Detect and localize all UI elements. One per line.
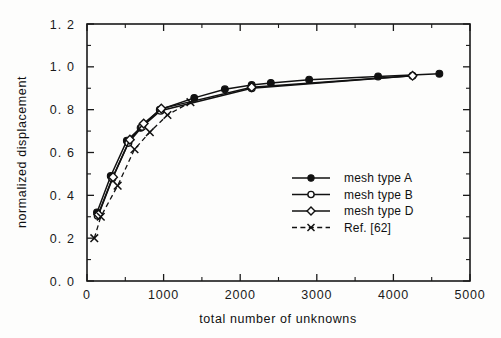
x-tick-label: 4000 — [378, 288, 409, 302]
x-axis-title: total number of unknowns — [199, 312, 357, 326]
y-tick-label: 0. 2 — [50, 232, 75, 246]
legend-item: mesh type A — [292, 171, 412, 185]
legend-label: Ref. [62] — [344, 221, 391, 235]
marker-filled-circle — [436, 70, 443, 77]
marker-filled-circle — [308, 175, 314, 181]
line-chart-canvas: 0. 00. 20. 40. 60. 81. 01. 2 01000200030… — [0, 0, 501, 338]
marker-filled-circle — [221, 86, 228, 93]
y-tick-label: 0. 0 — [50, 275, 75, 289]
y-tick-label: 1. 0 — [50, 60, 75, 74]
marker-open-diamond — [307, 207, 315, 215]
x-tick-label: 5000 — [454, 288, 485, 302]
marker-filled-circle — [306, 76, 313, 83]
chart-legend: mesh type Amesh type Bmesh type DRef. [6… — [292, 171, 414, 235]
marker-open-diamond — [408, 72, 417, 81]
x-axis-ticks — [87, 24, 470, 281]
y-axis-title: normalized displacement — [15, 76, 29, 228]
legend-label: mesh type D — [344, 204, 414, 218]
marker-open-circle — [308, 191, 314, 197]
legend-item: Ref. [62] — [292, 221, 391, 235]
x-tick-label: 3000 — [301, 288, 332, 302]
legend-label: mesh type B — [344, 188, 413, 202]
x-tick-label: 0 — [83, 288, 91, 302]
y-tick-label: 0. 8 — [50, 103, 75, 117]
y-tick-label: 0. 4 — [50, 189, 75, 203]
y-axis-tick-labels: 0. 00. 20. 40. 60. 81. 01. 2 — [50, 18, 75, 289]
y-axis-ticks — [87, 24, 470, 281]
plot-frame — [87, 24, 470, 281]
x-tick-label: 2000 — [225, 288, 256, 302]
chart-figure: 0. 00. 20. 40. 60. 81. 01. 2 01000200030… — [0, 0, 501, 338]
axes-border — [87, 24, 470, 281]
y-tick-label: 1. 2 — [50, 18, 75, 32]
x-axis-tick-labels: 010002000300040005000 — [83, 288, 485, 302]
legend-label: mesh type A — [344, 171, 412, 185]
legend-item: mesh type D — [292, 204, 414, 218]
y-tick-label: 0. 6 — [50, 146, 75, 160]
x-tick-label: 1000 — [148, 288, 179, 302]
legend-item: mesh type B — [292, 188, 413, 202]
